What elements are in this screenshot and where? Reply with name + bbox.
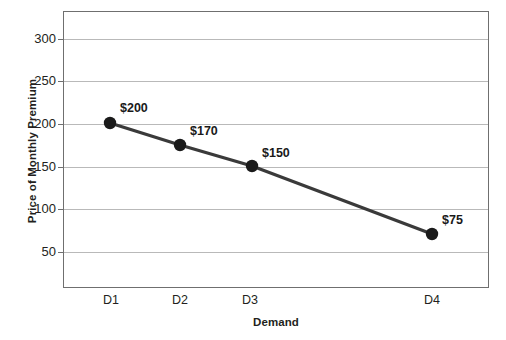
- gridline-150: [64, 167, 488, 168]
- chart-root: Price of Monthly Premium 300 250 200 150…: [0, 0, 506, 340]
- data-label-d1: $200: [120, 101, 148, 115]
- data-label-d3: $150: [262, 146, 290, 160]
- y-tick-label-150: 150: [10, 159, 56, 174]
- y-tick-mark-150: [58, 167, 64, 168]
- x-tick-label-d2: D2: [150, 293, 210, 307]
- x-axis-title: Demand: [63, 316, 489, 328]
- y-tick-mark-100: [58, 209, 64, 210]
- y-tick-label-200: 200: [10, 116, 56, 131]
- y-tick-mark-300: [58, 39, 64, 40]
- gridline-50: [64, 252, 488, 253]
- y-tick-mark-200: [58, 124, 64, 125]
- y-tick-label-50: 50: [10, 244, 56, 259]
- y-tick-mark-250: [58, 81, 64, 82]
- data-label-d2: $170: [190, 124, 218, 138]
- y-tick-label-250: 250: [10, 73, 56, 88]
- gridline-250: [64, 81, 488, 82]
- gridline-300: [64, 39, 488, 40]
- y-axis-tick-labels: 300 250 200 150 100 50: [6, 11, 56, 288]
- gridline-100: [64, 209, 488, 210]
- data-label-d4: $75: [442, 213, 463, 227]
- gridline-200: [64, 124, 488, 125]
- y-tick-label-300: 300: [10, 31, 56, 46]
- y-tick-mark-50: [58, 252, 64, 253]
- x-tick-label-d4: D4: [402, 293, 462, 307]
- x-tick-label-d3: D3: [220, 293, 280, 307]
- x-tick-label-d1: D1: [81, 293, 141, 307]
- y-tick-label-100: 100: [10, 201, 56, 216]
